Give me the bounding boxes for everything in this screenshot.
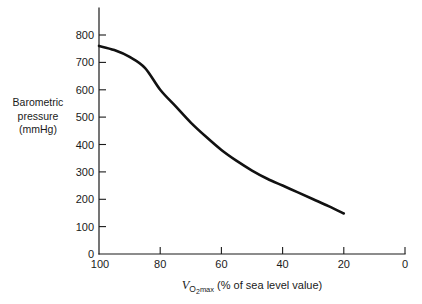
x-axis-label: VO2max (% of sea level value): [99, 278, 405, 295]
x-tick-label-100: 100: [91, 258, 109, 270]
x-tick-label-60: 60: [215, 258, 227, 270]
y-tick-label-500: 500: [76, 111, 94, 123]
x-axis-ticks: [160, 247, 405, 254]
y-tick-label-400: 400: [76, 139, 94, 151]
y-tick-label-700: 700: [76, 56, 94, 68]
y-tick-label-100: 100: [76, 221, 94, 233]
x-axis-label-sub-o: O: [189, 284, 196, 294]
x-axis-group: 100 80 60 40 20 0: [91, 247, 408, 270]
x-tick-label-20: 20: [338, 258, 350, 270]
x-axis-label-rest: (% of sea level value): [217, 279, 322, 291]
y-tick-label-300: 300: [76, 166, 94, 178]
chart-figure: 800 700 600 500 400 300 200 100 0 100: [0, 0, 422, 304]
y-axis-ticks: [99, 35, 106, 227]
y-tick-label-200: 200: [76, 193, 94, 205]
y-axis-label-line-2: pressure: [2, 110, 74, 124]
x-axis-label-sub-max: max: [200, 285, 214, 294]
y-axis-label-line-3: (mmHg): [2, 123, 74, 137]
pressure-curve: [99, 46, 344, 214]
x-axis-tick-labels: 100 80 60 40 20 0: [91, 258, 408, 270]
chart-plot-area: 800 700 600 500 400 300 200 100 0 100: [0, 0, 422, 304]
y-tick-label-600: 600: [76, 84, 94, 96]
y-axis-label: Barometric pressure (mmHg): [2, 96, 74, 137]
y-axis-label-line-1: Barometric: [2, 96, 74, 110]
y-tick-label-800: 800: [76, 29, 94, 41]
x-tick-label-0: 0: [402, 258, 408, 270]
x-tick-label-80: 80: [154, 258, 166, 270]
x-tick-label-40: 40: [276, 258, 288, 270]
y-axis-tick-labels: 800 700 600 500 400 300 200 100 0: [76, 29, 94, 260]
x-axis-label-subscript: O2max: [189, 284, 214, 294]
